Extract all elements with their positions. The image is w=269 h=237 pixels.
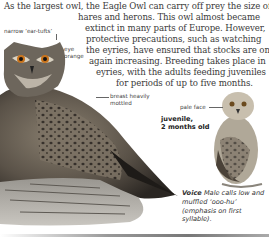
paragraph-line: the eyries, have ensured that stocks are… (86, 45, 269, 56)
label-juvenile-line1: juvenile, (161, 115, 210, 123)
leader-line (209, 107, 223, 108)
label-eye: eye orange (64, 46, 84, 59)
voice-heading: Voice (182, 189, 202, 197)
label-juvenile-line2: 2 months old (161, 123, 210, 131)
voice-note: Voice Male calls low and muffled ‘ooo-hu… (182, 189, 268, 224)
paragraph-line: hares and herons. This owl almost became (78, 12, 260, 23)
label-breast-line1: breast heavily (110, 93, 150, 100)
paragraph-line: eyries, with the adults feeding juvenile… (96, 67, 266, 78)
label-juvenile: juvenile, 2 months old (161, 115, 210, 131)
label-pale-face: pale face (180, 104, 206, 111)
bottom-divider (0, 234, 269, 237)
paragraph-line: again increasing. Breeding takes place i… (89, 56, 266, 67)
label-eye-line2: orange (64, 53, 84, 60)
leader-line (56, 34, 57, 40)
paragraph-line: protective precautions, such as watching (86, 34, 261, 45)
paragraph-line: for periods of up to five months. (116, 78, 253, 89)
leader-line (96, 97, 109, 98)
paragraph-line: extinct in many parts of Europe. However… (85, 23, 265, 34)
paragraph-line: As the largest owl, the Eagle Owl can ca… (4, 1, 269, 12)
label-ear-tufts: narrow ‘ear-tufts’ (4, 28, 52, 35)
label-breast: breast heavily mottled (110, 93, 150, 106)
label-breast-line2: mottled (110, 100, 150, 107)
